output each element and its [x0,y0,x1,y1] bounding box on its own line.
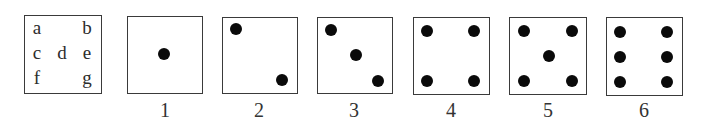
pip-dot-icon [566,25,578,37]
face-label-3: 3 [349,100,359,120]
key-letter-d: d [57,43,67,62]
key-letter-e: e [83,43,91,62]
pip-dot-icon [518,25,530,37]
pip-dot-icon [614,51,626,63]
pip-dot-icon [468,25,480,37]
key-letter-g: g [82,68,92,87]
key-letter-c: c [33,43,41,62]
pip-dot-icon [543,50,555,62]
pip-dot-icon [468,75,480,87]
pip-dot-icon [518,75,530,87]
pip-dot-icon [276,74,288,86]
pip-dot-icon [325,24,337,36]
key-letter-f: f [34,68,40,87]
pip-dot-icon [158,48,170,60]
key-letter-b: b [82,18,92,37]
pip-dot-icon [421,25,433,37]
pip-dot-icon [661,26,673,38]
pip-dot-icon [421,75,433,87]
face-label-1: 1 [160,100,170,120]
face-label-4: 4 [446,100,456,120]
face-label-5: 5 [543,100,553,120]
pip-dot-icon [372,75,384,87]
pip-dot-icon [661,51,673,63]
pip-dot-icon [614,26,626,38]
pip-dot-icon [350,49,362,61]
pip-dot-icon [566,75,578,87]
pip-dot-icon [230,23,242,35]
face-label-2: 2 [254,100,264,120]
key-letter-a: a [33,18,41,37]
face-label-6: 6 [639,100,649,120]
pip-dot-icon [614,76,626,88]
pip-dot-icon [661,76,673,88]
